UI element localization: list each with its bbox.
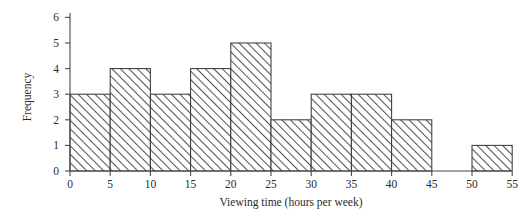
x-tick-label: 35 xyxy=(346,178,358,190)
histogram-bar xyxy=(231,43,271,171)
histogram-figure: 0123456 0510152025303540455055 Frequency… xyxy=(0,0,524,216)
x-tick-label: 30 xyxy=(305,178,317,190)
histogram-bar xyxy=(70,94,110,171)
x-tick-label: 20 xyxy=(225,178,237,190)
histogram-bar xyxy=(472,145,512,171)
histogram-bar xyxy=(271,120,311,171)
x-tick-label: 55 xyxy=(506,178,518,190)
histogram-svg: 0123456 0510152025303540455055 Frequency… xyxy=(0,0,524,216)
x-tick-label: 50 xyxy=(466,178,478,190)
y-tick-label: 0 xyxy=(53,165,59,177)
y-tick-label: 5 xyxy=(53,37,59,49)
y-axis-title: Frequency xyxy=(21,72,34,121)
y-tick-label: 4 xyxy=(53,63,59,75)
y-tick-label: 1 xyxy=(53,139,59,151)
histogram-bar xyxy=(191,69,231,171)
x-tick-label: 0 xyxy=(67,178,73,190)
x-tick-label: 25 xyxy=(265,178,277,190)
x-tick-label: 15 xyxy=(185,178,197,190)
x-tick-label: 45 xyxy=(426,178,438,190)
histogram-bar xyxy=(110,69,150,171)
x-tick-label: 5 xyxy=(107,178,113,190)
histogram-bar xyxy=(351,94,391,171)
y-tick-label: 3 xyxy=(53,88,59,100)
x-tick-label: 10 xyxy=(145,178,157,190)
x-axis-title: Viewing time (hours per week) xyxy=(219,196,362,209)
y-tick-label: 2 xyxy=(53,114,59,126)
y-tick-label: 6 xyxy=(53,11,59,23)
histogram-bar xyxy=(150,94,190,171)
x-tick-label: 40 xyxy=(386,178,398,190)
histogram-bar xyxy=(311,94,351,171)
histogram-bar xyxy=(392,120,432,171)
